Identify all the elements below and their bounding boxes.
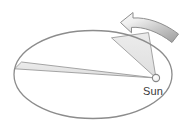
sun-label: Sun (143, 85, 163, 97)
swept-area-perihelion (112, 33, 157, 78)
orbit-diagram-canvas: Sun (0, 0, 186, 126)
kepler-second-law-figure: Sun (0, 0, 186, 126)
sun-marker-icon (152, 74, 159, 81)
swept-area-aphelion (15, 62, 156, 78)
elliptical-orbit (14, 31, 172, 119)
